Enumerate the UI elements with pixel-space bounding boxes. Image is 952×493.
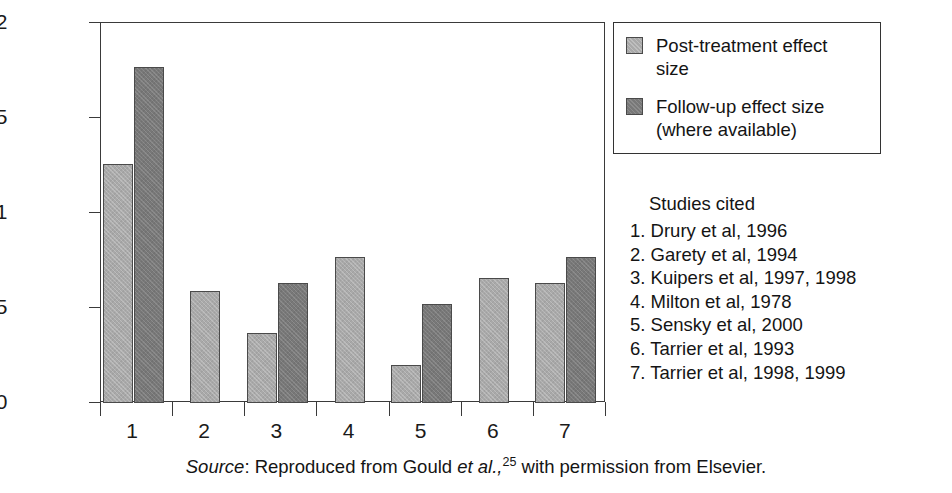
study-list-item: 7. Tarrier et al, 1998, 1999 [613,361,948,385]
bar-chart-plot: 00. 511. 52 1234567 [0,0,620,450]
legend-swatch-follow-up [626,98,643,115]
x-axis-tick-label: 6 [463,420,523,442]
bar-post-treatment [335,257,365,403]
studies-cited-block: Studies cited 1. Drury et al, 19962. Gar… [613,192,948,384]
study-list-item: 2. Garety et al, 1994 [613,243,948,267]
x-axis-tick-mark [100,402,101,416]
y-axis-tick-mark [89,117,100,118]
bar-post-treatment [535,283,565,403]
legend-item-post-treatment: Post-treatment effect size [626,34,870,80]
study-list-item: 4. Milton et al, 1978 [613,290,948,314]
legend-item-follow-up: Follow-up effect size (where available) [626,95,870,141]
bar-follow-up [566,257,596,403]
y-axis-tick-mark [89,402,100,403]
x-axis-tick-mark [605,402,606,416]
x-axis-tick-label: 4 [319,420,379,442]
x-axis-tick-mark [172,402,173,416]
study-list-item: 3. Kuipers et al, 1997, 1998 [613,266,948,290]
x-axis-tick-label: 3 [246,420,306,442]
source-label: Source [186,456,245,477]
bar-follow-up [422,304,452,403]
x-axis-tick-label: 2 [174,420,234,442]
y-axis-tick-label: 2 [0,11,8,32]
x-axis-tick-mark [461,402,462,416]
legend-label-post-treatment: Post-treatment effect size [656,34,827,80]
legend-label-follow-up: Follow-up effect size (where available) [656,95,824,141]
source-colon: : [244,456,254,477]
bar-follow-up [134,67,164,403]
figure-container: 00. 511. 52 1234567 Post-treatment effec… [0,0,952,493]
source-text-after: with permission from Elsevier. [516,456,766,477]
x-axis-tick-label: 7 [535,420,595,442]
bar-post-treatment [479,278,509,403]
study-list-item: 5. Sensky et al, 2000 [613,313,948,337]
plot-frame [100,22,605,402]
y-axis-tick-label: 0. 5 [0,296,8,317]
x-axis-tick-mark [316,402,317,416]
bar-post-treatment [247,333,277,403]
y-axis-tick-label: 1 [0,201,8,222]
source-caption: Source: Reproduced from Gould et al.,25 … [0,455,952,479]
studies-cited-list: 1. Drury et al, 19962. Garety et al, 199… [613,219,948,384]
x-axis-tick-label: 1 [102,420,162,442]
x-axis-tick-mark [244,402,245,416]
source-etal: et al., [457,456,502,477]
x-axis-tick-mark [533,402,534,416]
y-axis-tick-mark [89,307,100,308]
x-axis-tick-label: 5 [391,420,451,442]
y-axis-tick-label: 0 [0,391,8,412]
y-axis-tick-mark [89,22,100,23]
source-text-before: Reproduced from Gould [255,456,458,477]
y-axis-tick-label: 1. 5 [0,106,8,127]
bar-post-treatment [190,291,220,403]
chart-legend: Post-treatment effect size Follow-up eff… [613,22,881,154]
bar-follow-up [278,283,308,403]
legend-swatch-post-treatment [626,37,643,54]
source-reference-number: 25 [503,455,517,469]
bar-post-treatment [103,164,133,403]
x-axis-tick-mark [389,402,390,416]
studies-cited-title: Studies cited [613,192,948,216]
study-list-item: 6. Tarrier et al, 1993 [613,337,948,361]
bar-post-treatment [391,365,421,403]
study-list-item: 1. Drury et al, 1996 [613,219,948,243]
y-axis-tick-mark [89,212,100,213]
